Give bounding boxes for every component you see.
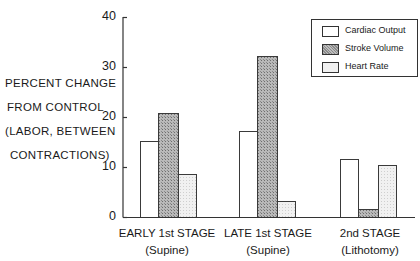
legend-swatch-stroke-volume	[322, 44, 339, 55]
category-label-early: EARLY 1st STAGE (Supine)	[117, 225, 217, 259]
bar-stroke-volume	[359, 210, 379, 218]
y-tick-label-30: 30	[92, 59, 116, 73]
y-axis-title-line-2: FROM CONTROL	[7, 101, 104, 113]
category-label-late: LATE 1st STAGE (Supine)	[218, 225, 318, 259]
legend-label-cardiac-output: Cardiac Output	[345, 25, 406, 35]
bar-stroke-volume	[159, 114, 179, 218]
category-label-late-line2: (Supine)	[218, 242, 318, 259]
legend-label-heart-rate: Heart Rate	[345, 61, 389, 71]
bar-cardiac-output	[141, 142, 159, 218]
category-label-early-line1: EARLY 1st STAGE	[117, 225, 217, 242]
bar-heart-rate	[379, 166, 397, 218]
category-label-early-line2: (Supine)	[117, 242, 217, 259]
y-tick-label-10: 10	[92, 159, 116, 173]
legend-swatch-cardiac-output	[322, 26, 339, 37]
legend-swatch-heart-rate	[322, 62, 339, 73]
category-label-late-line1: LATE 1st STAGE	[218, 225, 318, 242]
y-axis-title-line-3: (LABOR, BETWEEN	[5, 125, 116, 137]
legend-label-stroke-volume: Stroke Volume	[345, 43, 404, 53]
bar-group	[141, 57, 397, 218]
y-axis-title-line-1: PERCENT CHANGE	[5, 77, 116, 89]
bar-cardiac-output	[240, 132, 258, 218]
category-label-second-line2: (Lithotomy)	[330, 242, 410, 259]
bar-cardiac-output	[341, 160, 359, 218]
y-tick-label-40: 40	[92, 9, 116, 23]
bar-stroke-volume	[258, 57, 278, 218]
bar-heart-rate	[278, 202, 296, 218]
category-label-second-stage: 2nd STAGE (Lithotomy)	[330, 225, 410, 259]
y-tick-label-0: 0	[92, 209, 116, 223]
bar-heart-rate	[179, 175, 197, 218]
category-label-second-line1: 2nd STAGE	[330, 225, 410, 242]
y-tick-label-20: 20	[92, 109, 116, 123]
legend: Cardiac Output Stroke Volume Heart Rate	[311, 19, 418, 77]
